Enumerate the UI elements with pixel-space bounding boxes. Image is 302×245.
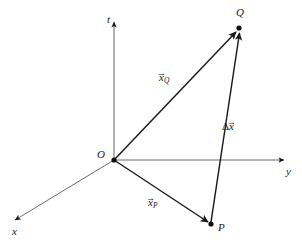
origin-label: O bbox=[97, 149, 105, 160]
vector-diagram-figure: t y x O Q P x→Q x→P Δx→ bbox=[0, 0, 302, 245]
t-axis-label: t bbox=[107, 14, 110, 25]
vector-x-p-line bbox=[114, 160, 208, 222]
point-q-label: Q bbox=[236, 7, 244, 18]
y-axis-label: y bbox=[286, 166, 291, 177]
point-p-label: P bbox=[218, 222, 225, 233]
point-q-dot bbox=[236, 25, 241, 30]
origin-dot bbox=[111, 157, 116, 162]
x-axis-label: x bbox=[12, 226, 17, 237]
vector-delta-x-symbol: x→ bbox=[229, 121, 234, 132]
vector-delta-x-label: Δx→ bbox=[222, 121, 234, 132]
point-p-dot bbox=[208, 221, 213, 226]
vectors-group bbox=[114, 32, 240, 222]
vector-x-p-symbol: x→ bbox=[148, 197, 153, 208]
vector-x-q-line bbox=[114, 32, 236, 160]
vector-x-p-label: x→P bbox=[148, 197, 157, 210]
vector-x-q-symbol: x→ bbox=[159, 72, 164, 83]
vector-x-q-label: x→Q bbox=[159, 72, 169, 85]
axes-group bbox=[15, 22, 284, 220]
x-axis-line bbox=[15, 160, 114, 220]
